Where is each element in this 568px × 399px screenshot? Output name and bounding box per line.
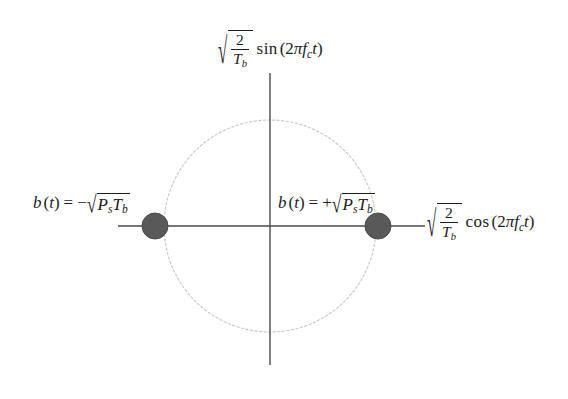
radical-sign-icon: √ xyxy=(218,33,227,70)
signal-base: b xyxy=(278,193,287,212)
signal-base: b xyxy=(33,193,42,212)
period-subscript: b xyxy=(367,203,373,216)
fraction-two-over-tb: 2Tb xyxy=(231,32,249,70)
constellation-point-negative[interactable] xyxy=(142,213,168,239)
coefficient-two: 2 xyxy=(285,39,294,58)
plus-sign: + xyxy=(322,193,332,212)
vertical-axis-label: √2Tbsin(2πfct) xyxy=(218,30,323,71)
pi-symbol: π xyxy=(506,212,515,231)
coefficient-two: 2 xyxy=(497,212,506,231)
equals-sign: = xyxy=(64,193,74,212)
close-paren: ) xyxy=(317,39,323,58)
close-paren: ) xyxy=(529,212,535,231)
sqrt-two-over-tb-cos: √2Tb xyxy=(427,203,462,244)
constellation-point-positive[interactable] xyxy=(365,213,391,239)
cos-function-name: cos xyxy=(466,212,490,231)
radical-sign-icon: √ xyxy=(427,206,436,243)
period-base: T xyxy=(357,195,366,214)
constellation-label-positive: b(t)=+√PsTb xyxy=(278,193,375,216)
period-subscript: b xyxy=(122,203,128,216)
radical-sign-icon: √ xyxy=(332,193,342,217)
sqrt-two-over-tb-sin: √2Tb xyxy=(218,30,253,71)
sin-function-name: sin xyxy=(257,39,278,58)
radical-sign-icon: √ xyxy=(87,193,97,217)
fraction-numerator: 2 xyxy=(440,205,458,223)
close-paren: ) xyxy=(299,193,305,212)
power-base: P xyxy=(98,195,108,214)
sqrt-ps-tb: √PsTb xyxy=(87,193,130,216)
fraction-numerator: 2 xyxy=(231,32,249,50)
constellation-label-negative: b(t)=−√PsTb xyxy=(33,193,130,216)
power-base: P xyxy=(343,195,353,214)
horizontal-axis-label: √2Tbcos(2πfct) xyxy=(427,203,534,244)
sqrt-ps-tb: √PsTb xyxy=(332,193,375,216)
bpsk-constellation-figure: √2Tbsin(2πfct) √2Tbcos(2πfct) b(t)=−√PsT… xyxy=(0,0,568,399)
minus-sign: − xyxy=(77,193,87,212)
close-paren: ) xyxy=(54,193,60,212)
fraction-denominator: Tb xyxy=(440,223,458,242)
fraction-two-over-tb: 2Tb xyxy=(440,205,458,243)
equals-sign: = xyxy=(309,193,319,212)
fraction-denominator: Tb xyxy=(231,50,249,69)
period-base: T xyxy=(112,195,121,214)
